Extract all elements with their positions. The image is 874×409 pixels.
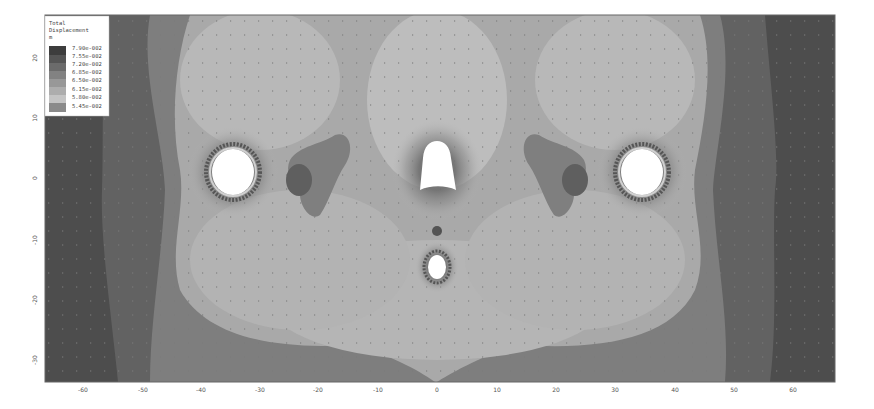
x-tick-label: -30 xyxy=(255,386,265,393)
y-axis: 20 10 0 -10 -20 -30 xyxy=(31,54,38,365)
legend-level: 6.50e-002 xyxy=(72,77,102,83)
y-tick-label: -10 xyxy=(31,235,38,245)
x-tick-label: 30 xyxy=(611,386,619,393)
x-axis: -60 -50 -40 -30 -20 -10 0 10 20 30 40 50… xyxy=(78,386,797,393)
contour-plot: -60 -50 -40 -30 -20 -10 0 10 20 30 40 50… xyxy=(0,0,874,409)
x-tick-label: -50 xyxy=(138,386,148,393)
legend-level: 6.85e-002 xyxy=(72,69,102,75)
legend-level: 7.55e-002 xyxy=(72,53,102,59)
lower-oval-opening xyxy=(428,255,446,279)
legend-title-line: Displacement xyxy=(49,27,89,34)
x-tick-label: 10 xyxy=(493,386,501,393)
legend-swatches xyxy=(49,46,66,112)
legend-swatch xyxy=(49,103,66,112)
y-tick-label: 0 xyxy=(31,176,38,180)
legend-level: 5.45e-002 xyxy=(72,103,102,109)
legend-level: 7.20e-002 xyxy=(72,61,102,67)
legend-swatch xyxy=(49,87,66,95)
right-circular-opening xyxy=(621,149,663,195)
x-tick-label: 20 xyxy=(552,386,560,393)
legend-level: 6.15e-002 xyxy=(72,86,102,92)
y-tick-label: -20 xyxy=(31,295,38,305)
left-circular-opening xyxy=(212,149,254,195)
legend-swatch xyxy=(49,46,66,55)
legend-swatch xyxy=(49,55,66,63)
legend: Total Displacement m 7.90e-002 7.55e-002… xyxy=(45,16,109,116)
x-tick-label: 40 xyxy=(671,386,679,393)
legend-swatch xyxy=(49,71,66,79)
x-tick-label: 0 xyxy=(435,386,439,393)
legend-level: 5.80e-002 xyxy=(72,94,102,100)
x-tick-label: -60 xyxy=(78,386,88,393)
x-tick-label: -10 xyxy=(373,386,383,393)
y-tick-label: 10 xyxy=(31,114,38,122)
legend-swatch xyxy=(49,63,66,71)
contour-field xyxy=(45,10,835,382)
x-tick-label: 50 xyxy=(730,386,738,393)
legend-swatch xyxy=(49,79,66,87)
y-tick-label: 20 xyxy=(31,54,38,62)
x-tick-label: 60 xyxy=(789,386,797,393)
mid-dark-spot xyxy=(432,226,442,236)
legend-title-line: Total xyxy=(49,20,66,26)
right-pillar-core xyxy=(562,164,588,196)
left-pillar-core xyxy=(286,164,312,196)
x-tick-label: -20 xyxy=(313,386,323,393)
x-tick-label: -40 xyxy=(196,386,206,393)
legend-swatch xyxy=(49,95,66,103)
legend-level: 7.90e-002 xyxy=(72,45,102,51)
y-tick-label: -30 xyxy=(31,355,38,365)
